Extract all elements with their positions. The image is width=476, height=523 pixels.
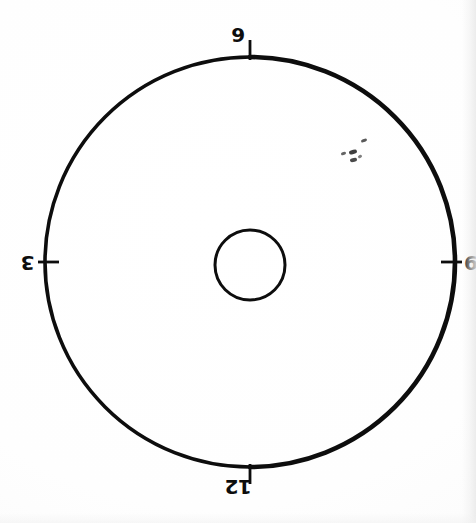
outer-circle-left-arc <box>45 57 250 467</box>
circle-diagram <box>0 0 476 523</box>
scan-edge-bottom <box>0 513 476 523</box>
quadrant-label-left-text: 3 <box>21 253 34 273</box>
quadrant-label-top-text: 9 <box>231 23 244 47</box>
scan-edge-right <box>462 0 476 523</box>
quadrant-label-top: 9 <box>0 25 476 45</box>
quadrant-label-left: 3 <box>21 253 34 273</box>
scanned-page: 9 6 12 3 <box>0 0 476 523</box>
outer-circle-right-arc <box>250 57 455 467</box>
inner-circle <box>215 230 285 300</box>
quadrant-label-bottom: 12 <box>0 477 476 497</box>
quadrant-label-bottom-text: 12 <box>225 477 252 497</box>
